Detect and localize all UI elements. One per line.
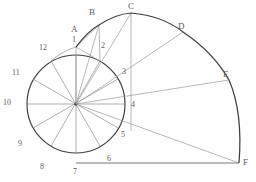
inner-arc-segment xyxy=(51,47,76,61)
spiral-point-label: D xyxy=(178,22,185,30)
division-label: 1 xyxy=(72,36,76,44)
division-label: 11 xyxy=(12,69,20,77)
spiral-construction-drawing xyxy=(0,0,256,182)
division-label: 9 xyxy=(18,140,22,148)
diagram-canvas: 1 2 3 4 5 6 7 8 9 10 11 12 A B C D E F xyxy=(0,0,256,182)
spiral-point-label: F xyxy=(243,158,248,166)
construction-rays xyxy=(76,13,239,163)
spiral-point-label: B xyxy=(89,8,95,16)
spiral-point-label: E xyxy=(223,70,229,78)
division-label: 12 xyxy=(39,44,47,52)
spiral-point-label: A xyxy=(71,25,78,33)
division-label: 4 xyxy=(131,101,135,109)
spiral-arc xyxy=(76,13,240,163)
spiral-point-label: C xyxy=(128,2,134,10)
division-label: 5 xyxy=(121,131,125,139)
division-label: 7 xyxy=(73,168,77,176)
division-label: 6 xyxy=(107,155,111,163)
division-label: 8 xyxy=(40,163,44,171)
division-label: 10 xyxy=(3,99,11,107)
division-label: 2 xyxy=(101,42,105,50)
division-label: 3 xyxy=(122,68,126,76)
